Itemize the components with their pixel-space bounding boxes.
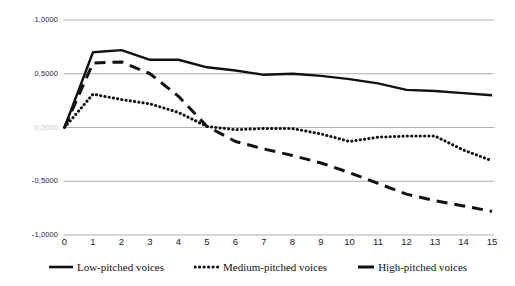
series-line-low-pitched-voices — [65, 50, 493, 127]
legend-swatch-dotted — [194, 262, 220, 272]
legend-label: High-pitched voices — [378, 261, 467, 273]
x-tick-label-4: 4 — [169, 236, 189, 247]
y-tick-label-2: 0,0000 — [14, 123, 58, 132]
x-tick-label-5: 5 — [197, 236, 217, 247]
x-tick-label-1: 1 — [83, 236, 103, 247]
line-chart: -1,0000-0,50000,00000,50001,0000 0123456… — [0, 0, 515, 286]
series-lines — [65, 50, 493, 211]
x-tick-label-12: 12 — [397, 236, 417, 247]
legend-swatch-dashed — [357, 262, 375, 272]
x-tick-label-3: 3 — [140, 236, 160, 247]
x-tick-label-11: 11 — [368, 236, 388, 247]
y-tick-label-1: -0,5000 — [14, 176, 58, 185]
y-tick-label-3: 0,5000 — [14, 69, 58, 78]
x-tick-label-14: 14 — [454, 236, 474, 247]
x-tick-label-9: 9 — [311, 236, 331, 247]
x-tick-label-13: 13 — [425, 236, 445, 247]
x-tick-label-2: 2 — [112, 236, 132, 247]
chart-legend: Low-pitched voicesMedium-pitched voicesH… — [0, 256, 515, 278]
x-tick-label-15: 15 — [482, 236, 502, 247]
legend-label: Low-pitched voices — [77, 261, 164, 273]
x-tick-label-0: 0 — [55, 236, 75, 247]
legend-item-medium-pitched-voices[interactable]: Medium-pitched voices — [194, 261, 327, 273]
legend-swatch-solid — [48, 262, 74, 272]
legend-item-low-pitched-voices[interactable]: Low-pitched voices — [48, 261, 164, 273]
x-tick-label-7: 7 — [254, 236, 274, 247]
x-tick-label-10: 10 — [340, 236, 360, 247]
legend-label: Medium-pitched voices — [223, 261, 327, 273]
x-tick-label-6: 6 — [226, 236, 246, 247]
x-tick-label-8: 8 — [283, 236, 303, 247]
y-tick-label-0: -1,0000 — [14, 230, 58, 239]
y-tick-label-4: 1,0000 — [14, 15, 58, 24]
legend-item-high-pitched-voices[interactable]: High-pitched voices — [357, 261, 467, 273]
